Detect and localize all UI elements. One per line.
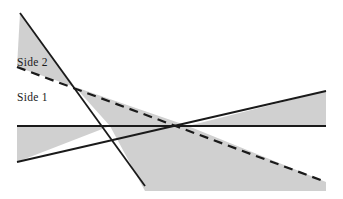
side-1-label: Side 1 bbox=[17, 92, 48, 104]
figure-container: Side 2 Side 1 bbox=[0, 0, 343, 199]
line-diagram-svg bbox=[0, 0, 343, 199]
side-2-label: Side 2 bbox=[17, 57, 48, 69]
